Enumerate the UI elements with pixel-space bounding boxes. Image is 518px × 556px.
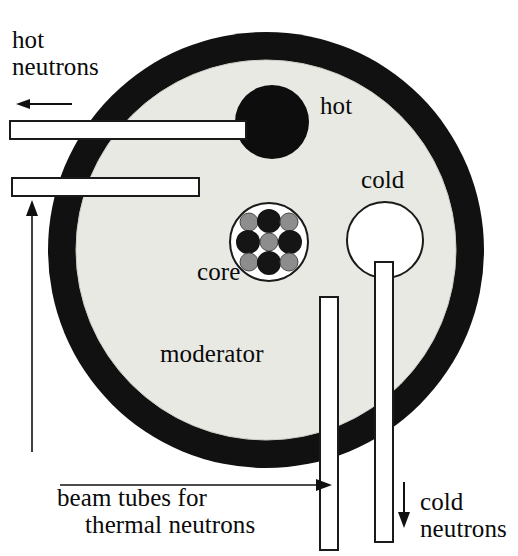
hot-neutron-flow-arrow (16, 99, 72, 109)
reactor-diagram-figure: hot neutrons hot cold core moderator bea… (0, 0, 518, 556)
fuel-edge-n (257, 209, 281, 233)
fuel-edge-e (278, 230, 302, 254)
fuel-corner-ne (280, 213, 298, 231)
core-assembly (230, 203, 308, 281)
cold-beam-tube-vertical (375, 262, 393, 542)
fuel-center (260, 233, 278, 251)
thermal-beam-tube-vertical (320, 297, 338, 550)
thermal-neutron-up-arrow (26, 200, 38, 452)
label-hot-source: hot (320, 92, 352, 119)
cold-neutron-down-arrow (398, 482, 410, 528)
fuel-corner-se (280, 253, 298, 271)
label-beam-tubes-line2: thermal neutrons (57, 511, 255, 538)
label-cold-neutrons: cold neutrons (420, 488, 507, 542)
label-cold-source: cold (361, 166, 404, 193)
beam-tube-lower (12, 178, 199, 196)
fuel-corner-nw (240, 213, 258, 231)
label-beam-tubes-line1: beam tubes for (57, 484, 207, 511)
fuel-edge-s (257, 251, 281, 275)
label-moderator: moderator (160, 340, 264, 367)
fuel-corner-sw (240, 253, 258, 271)
label-core: core (197, 258, 240, 285)
reactor-schematic-svg (0, 0, 518, 556)
fuel-edge-w (236, 230, 260, 254)
label-beam-tubes: beam tubes forthermal neutrons (57, 484, 255, 538)
label-hot-neutrons: hot neutrons (12, 26, 99, 80)
hot-beam-tube-upper (10, 121, 246, 139)
